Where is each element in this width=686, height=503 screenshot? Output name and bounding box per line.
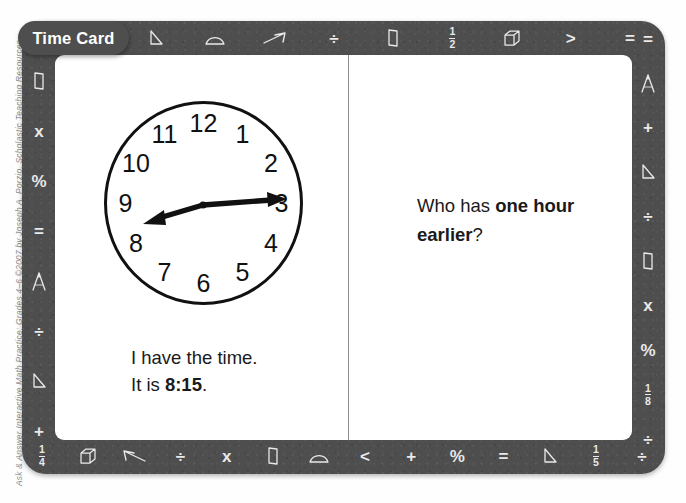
plus-sign: + [397,444,425,468]
statement-line-1: I have the time. [131,345,351,372]
fraction-one-fourth: 14 [28,444,56,468]
rectangular-prism-icon [259,444,287,468]
equals-sign: = [634,27,662,51]
multiply-sign: x [213,444,241,468]
divide-sign: ÷ [166,444,194,468]
triangle-icon [634,160,662,184]
time-card-tab-label: Time Card [32,29,114,48]
cube-icon [74,444,102,468]
arrow-right-icon [261,26,289,50]
question-suffix: ? [473,224,483,245]
divide-sign: ÷ [634,205,662,229]
time-statement: I have the time. It is 8:15. [131,345,351,399]
divide-sign: ÷ [320,26,348,50]
fraction-one-half: 12 [438,26,466,50]
less-than-sign: < [351,444,379,468]
fraction-one-eighth: 18 [634,383,662,407]
divide-sign: ÷ [634,427,662,451]
triangle-icon [142,26,170,50]
statement-line-2: It is 8:15. [131,372,351,399]
greater-than-sign: > [557,26,585,50]
rectangular-prism-icon [25,69,53,93]
plus-sign: + [25,419,53,443]
question-prefix: Who has [417,195,495,216]
fraction-one-fifth: 15 [582,444,610,468]
analog-clock: 121234567891011 [104,101,303,305]
percent-sign: % [443,444,471,468]
compass-icon [25,269,53,293]
equals-sign: = [25,219,53,243]
rectangular-prism-icon [379,26,407,50]
plus-sign: + [634,116,662,140]
rectangular-prism-icon [634,249,662,273]
compass-icon [634,71,662,95]
equals-sign: = [490,444,518,468]
arrow-left-icon [120,444,148,468]
question-text: Who has one hour earlier? [417,192,602,249]
divide-sign: ÷ [25,319,53,343]
statement-suffix: . [202,374,207,395]
triangle-icon [536,444,564,468]
protractor-icon [305,444,333,468]
percent-sign: % [25,169,53,193]
clock-hands-icon [104,101,303,305]
statement-prefix: It is [131,374,165,395]
multiply-sign: x [634,294,662,318]
statement-time-value: 8:15 [165,374,202,395]
cube-icon [498,26,526,50]
time-card-tab[interactable]: Time Card [18,21,129,55]
triangle-icon [25,369,53,393]
multiply-sign: x [25,119,53,143]
protractor-icon [201,26,229,50]
percent-sign: % [634,338,662,362]
time-card-worksheet: Ask & Answer Interactive Math Practice: … [0,0,686,503]
